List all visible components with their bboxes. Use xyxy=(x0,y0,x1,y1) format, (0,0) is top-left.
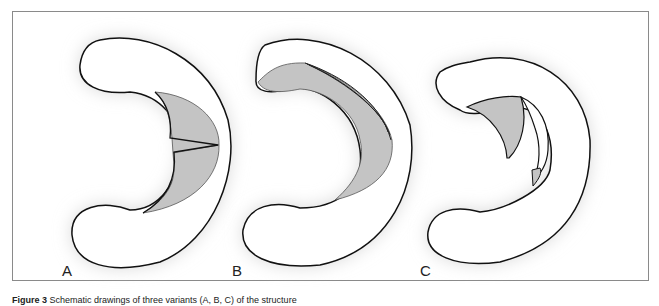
figure-caption: Figure 3 Schematic drawings of three var… xyxy=(12,295,297,305)
panel-label-a: A xyxy=(62,262,72,279)
figure-illustration xyxy=(0,0,659,306)
panel-label-c: C xyxy=(420,262,431,279)
caption-text: Schematic drawings of three variants (A,… xyxy=(50,295,297,305)
panel-b-drawing xyxy=(243,39,412,266)
panel-c-drawing xyxy=(428,58,590,264)
caption-prefix: Figure 3 xyxy=(12,295,47,305)
panel-label-b: B xyxy=(232,262,242,279)
panel-a-drawing xyxy=(72,38,231,267)
